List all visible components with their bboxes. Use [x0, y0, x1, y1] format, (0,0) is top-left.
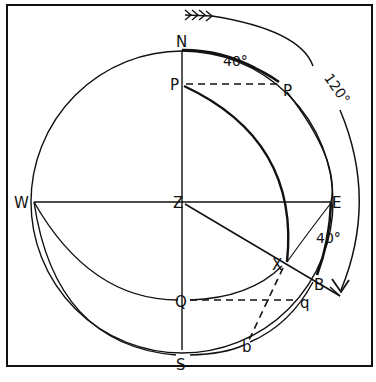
arc-q-to-x: [190, 266, 282, 300]
label-e: E: [332, 194, 341, 212]
arc-w-to-s: [34, 202, 176, 355]
arc-s-to-b: [190, 345, 244, 355]
label-w: W: [14, 194, 29, 212]
arc-40-segment: [250, 66, 279, 82]
label-s: S: [176, 356, 186, 374]
arc-p-to-x: [184, 86, 288, 262]
angle-label-top-40: 40°: [223, 53, 248, 69]
label-x: X: [272, 256, 282, 274]
frame-border: [7, 5, 372, 366]
label-p: P: [170, 76, 179, 94]
label-n: N: [176, 33, 187, 51]
arrow-head-icon: [332, 279, 349, 292]
label-q: Q: [175, 293, 187, 311]
label-p-projected: P: [283, 82, 292, 100]
label-b: B: [314, 276, 324, 294]
arc-p-to-e: [287, 92, 332, 202]
diagram-canvas: N P P W Z E X B Q q b S 40° 40° 120°: [0, 0, 376, 382]
label-q-projected: q: [300, 294, 310, 312]
arrow-feathers-icon: [185, 10, 212, 21]
label-z: Z: [173, 194, 183, 212]
angle-label-right-40: 40°: [316, 230, 341, 246]
outer-arc-bottom: [340, 110, 359, 290]
label-b-projected: b: [242, 338, 252, 356]
angle-label-120: 120°: [321, 70, 353, 107]
